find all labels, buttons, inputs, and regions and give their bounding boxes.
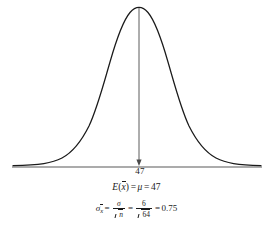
standard-error-value: 0.75 [162,203,178,213]
fraction-2-numerator: 6 [136,199,152,209]
standard-error-equals-2: = [126,203,134,213]
fraction-1-numerator: σ [113,199,125,209]
standard-error-fraction-sigma-over-sqrt-n: σn [113,199,125,219]
expectation-value: 47 [151,182,161,192]
sqrt-64-radical: 64 [138,209,150,219]
expectation-formula: E(x)=μ=47 [0,181,273,194]
standard-error-formula: σx=σn=664=0.75 [0,199,273,219]
standard-error-equals-3: = [153,203,161,213]
expectation-equals-2: = [142,182,150,192]
expectation-equals-1: = [129,182,137,192]
fraction-2-denominator: 64 [136,209,152,219]
standard-error-equals-1: = [103,203,111,213]
normal-distribution-figure: 47 E(x)=μ=47 σx=σn=664=0.75 [0,0,273,230]
standard-error-fraction-6-over-sqrt-64: 664 [136,199,152,219]
sqrt-n-radical: n [115,209,123,219]
normal-curve-path [13,7,261,165]
axis-tick-label-47: 47 [131,166,149,177]
standard-error-subscript-xbar: x [100,204,103,217]
formula-block: E(x)=μ=47 σx=σn=664=0.75 [0,181,273,219]
fraction-1-denominator: n [113,209,125,219]
expectation-variable-xbar: x [122,181,126,194]
